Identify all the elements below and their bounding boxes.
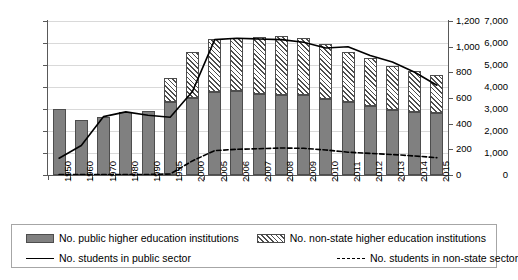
legend-swatch-line-solid-icon: [26, 258, 54, 259]
legend-item-students-non-state[interactable]: No. students in non-state sector: [337, 248, 518, 268]
x-tick-label: 2011: [352, 148, 362, 182]
legend-swatch-bar-hatched-icon: [257, 234, 285, 243]
y-tick-label-right: 0: [456, 170, 502, 180]
y-tick-left: [43, 87, 47, 88]
y-tick-right: [449, 124, 453, 125]
x-tick-label: 2014: [419, 148, 429, 182]
x-tick-label: 1995: [174, 148, 184, 182]
legend-item-non-state-institutions[interactable]: No. non-state higher education instituti…: [257, 228, 486, 248]
y-tick-label-left: 4,000: [466, 82, 508, 92]
y-tick-left: [43, 21, 47, 22]
x-tick-label: 1960: [85, 148, 95, 182]
y-tick-left: [43, 109, 47, 110]
x-tick-label: 2012: [374, 148, 384, 182]
y-tick-right: [449, 72, 453, 73]
legend-item-public-institutions[interactable]: No. public higher education institutions: [26, 228, 239, 248]
y-tick-label-right: 1,200: [456, 16, 502, 26]
legend-item-students-public[interactable]: No. students in public sector: [26, 248, 191, 268]
y-tick-label-right: 800: [456, 67, 502, 77]
legend-label-students-public: No. students in public sector: [59, 252, 191, 264]
x-tick-label: 2005: [219, 148, 229, 182]
y-tick-label-right: 400: [456, 119, 502, 129]
line-students-public: [59, 38, 437, 158]
y-axis-left: [47, 20, 48, 176]
y-tick-left: [43, 153, 47, 154]
y-tick-right: [449, 47, 453, 48]
y-tick-left: [43, 175, 47, 176]
legend-label-public-institutions: No. public higher education institutions: [59, 232, 239, 244]
y-tick-label-right: 200: [456, 144, 502, 154]
legend-row-1: No. public higher education institutions…: [12, 228, 496, 248]
x-tick-label: 2000: [196, 148, 206, 182]
x-tick-label: 1980: [130, 148, 140, 182]
x-tick: [48, 176, 49, 180]
x-tick-label: 2009: [308, 148, 318, 182]
x-tick-label: 2007: [263, 148, 273, 182]
y-tick-left: [43, 65, 47, 66]
y-tick-label-right: 600: [456, 93, 502, 103]
x-tick-label: 2015: [441, 148, 451, 182]
legend-label-non-state-institutions: No. non-state higher education instituti…: [290, 232, 486, 244]
legend-row-2: No. students in public sector No. studen…: [12, 248, 496, 268]
x-tick-label: 1970: [108, 148, 118, 182]
x-tick-label: 2013: [396, 148, 406, 182]
legend-label-students-non-state: No. students in non-state sector: [370, 252, 518, 264]
y-tick-right: [449, 98, 453, 99]
y-tick-left: [43, 131, 47, 132]
chart-legend: No. public higher education institutions…: [11, 224, 497, 268]
y-tick-right: [449, 21, 453, 22]
x-tick-label: 1950: [63, 148, 73, 182]
y-tick-label-right: 1,000: [456, 42, 502, 52]
x-tick-label: 2006: [241, 148, 251, 182]
x-tick-label: 2010: [330, 148, 340, 182]
legend-swatch-line-dashed-icon: [337, 258, 365, 259]
legend-swatch-bar-gray-icon: [26, 234, 54, 243]
x-tick-label: 1990: [152, 148, 162, 182]
x-tick-label: 2008: [285, 148, 295, 182]
y-tick-label-left: 3,000: [466, 104, 508, 114]
y-tick-left: [43, 43, 47, 44]
